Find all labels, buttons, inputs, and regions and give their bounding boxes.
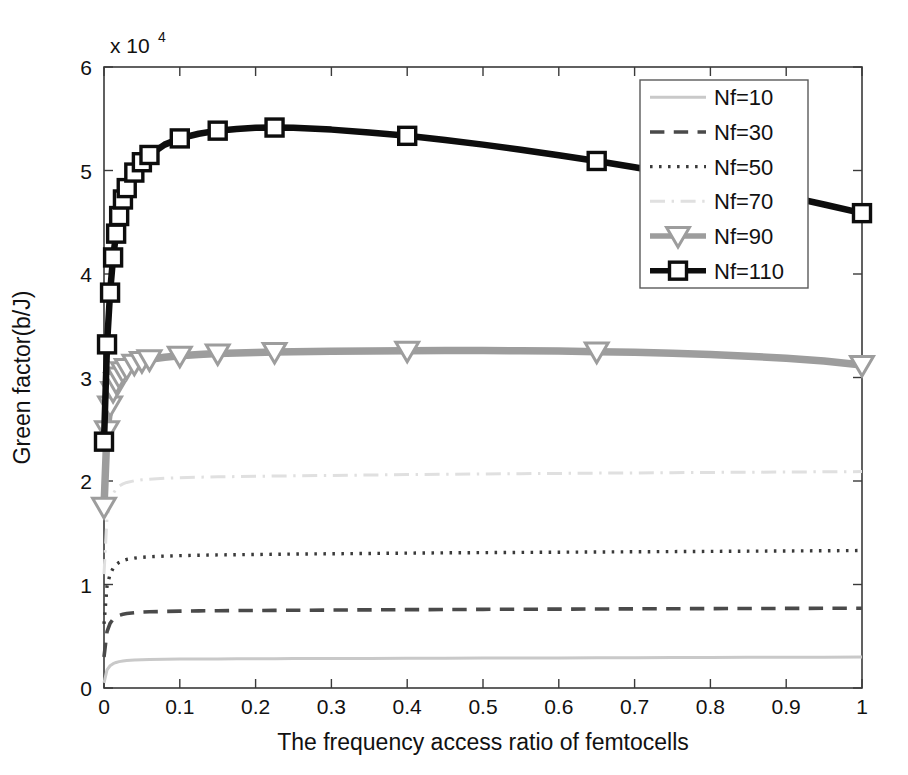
y-exponent-base: x 10 (110, 34, 150, 57)
x-tick-label: 0.1 (165, 695, 194, 718)
series-marker-square (105, 249, 122, 266)
y-tick-label: 5 (80, 160, 92, 183)
series-nf90 (93, 342, 874, 518)
series-line (104, 551, 862, 624)
series-nf50 (104, 551, 862, 624)
series-marker-square (854, 205, 871, 222)
x-tick-label: 1 (856, 695, 868, 718)
series-line (104, 472, 862, 575)
series-line (104, 657, 862, 683)
series-marker-square (102, 284, 119, 301)
y-tick-label: 6 (80, 56, 92, 79)
series-marker-square (99, 336, 116, 353)
series-marker-triangle (93, 498, 116, 518)
x-tick-label: 0.2 (241, 695, 270, 718)
y-tick-label: 1 (80, 574, 92, 597)
x-tick-label: 0.8 (696, 695, 725, 718)
series-marker-square (96, 433, 113, 450)
series-marker-square (108, 225, 125, 242)
series-line (104, 351, 862, 507)
series-nf10 (104, 657, 862, 683)
legend-label: Nf=30 (714, 120, 773, 145)
series-marker-square (588, 152, 605, 169)
y-tick-label: 4 (80, 263, 92, 286)
x-tick-label: 0.3 (317, 695, 346, 718)
series-line (104, 608, 862, 657)
legend: Nf=10Nf=30Nf=50Nf=70Nf=90Nf=110 (640, 80, 808, 288)
series-marker-square (141, 146, 158, 163)
series-marker-square (111, 208, 128, 225)
series-nf30 (104, 608, 862, 657)
series-marker-square (399, 127, 416, 144)
y-tick-label: 3 (80, 367, 92, 390)
series-nf70 (104, 472, 862, 575)
legend-label: Nf=50 (714, 155, 773, 180)
x-tick-label: 0.6 (544, 695, 573, 718)
chart-canvas: 00.10.20.30.40.50.60.70.80.910123456x 10… (0, 0, 908, 775)
legend-item-nf110[interactable]: Nf=110 (650, 259, 784, 284)
legend-label: Nf=90 (714, 224, 773, 249)
legend-label: Nf=110 (714, 259, 784, 284)
series-marker-square (171, 130, 188, 147)
legend-box (640, 80, 808, 288)
x-tick-label: 0.9 (772, 695, 801, 718)
x-tick-label: 0.4 (393, 695, 423, 718)
series-marker-square (670, 262, 687, 279)
x-tick-label: 0 (98, 695, 110, 718)
y-exponent-power: 4 (158, 29, 166, 45)
x-tick-label: 0.5 (468, 695, 497, 718)
legend-label: Nf=70 (714, 189, 773, 214)
x-tick-label: 0.7 (620, 695, 649, 718)
y-axis-exponent: x 104 (110, 29, 166, 57)
y-axis-title: Green factor(b/J) (9, 291, 35, 465)
series-marker-square (266, 119, 283, 136)
legend-label: Nf=10 (714, 85, 773, 110)
y-tick-label: 2 (80, 470, 92, 493)
x-axis-title: The frequency access ratio of femtocells (277, 729, 689, 755)
series-marker-square (209, 122, 226, 139)
y-tick-label: 0 (80, 677, 92, 700)
figure-container: 00.10.20.30.40.50.60.70.80.910123456x 10… (0, 0, 908, 775)
